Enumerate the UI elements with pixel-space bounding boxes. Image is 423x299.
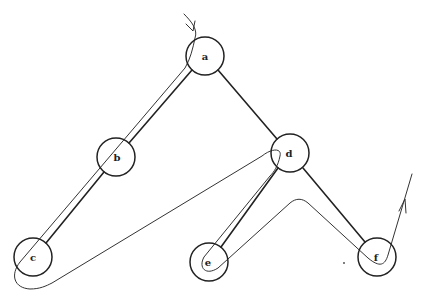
edge-d-f <box>303 168 365 242</box>
traversal-curve <box>15 14 412 289</box>
node-e: e <box>190 243 228 281</box>
edge-a-d <box>218 70 277 139</box>
node-f: f <box>358 238 396 276</box>
node-d: d <box>271 134 309 172</box>
tree-diagram: a b c d e f <box>0 0 423 299</box>
edge-d-e <box>221 168 278 247</box>
node-b: b <box>97 138 135 176</box>
node-c: c <box>14 238 52 276</box>
traversal-path <box>15 14 412 289</box>
edge-a-b <box>129 70 192 143</box>
node-b-label: b <box>114 152 121 163</box>
node-e-label: e <box>205 257 211 268</box>
node-a-label: a <box>202 51 209 62</box>
node-a: a <box>186 37 224 75</box>
stray-dot <box>343 262 345 264</box>
node-f-label: f <box>374 252 379 263</box>
node-d-label: d <box>286 148 293 159</box>
tree-edges <box>46 70 365 247</box>
edge-b-c <box>46 172 104 243</box>
node-c-label: c <box>30 252 36 263</box>
start-arrow-icon <box>186 21 195 31</box>
